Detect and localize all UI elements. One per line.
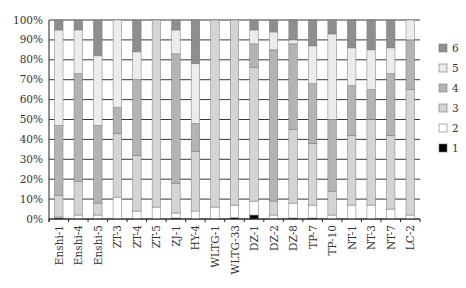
y-tick-label: 80%: [20, 53, 43, 65]
segment-6: [250, 20, 258, 30]
segment-6: [133, 20, 142, 52]
legend-swatch: [439, 144, 447, 152]
legend-label: 1: [452, 142, 459, 154]
segment-4: [269, 50, 278, 201]
segment-2: [172, 213, 181, 218]
segment-3: [55, 195, 64, 217]
segment-3: [406, 90, 415, 215]
segment-2: [230, 205, 239, 218]
x-axis: Enshi-1Enshi-4Enshi-5ZT-3ZT-4ZT-5ZJ-1HY-…: [49, 219, 420, 274]
segment-5: [74, 30, 83, 74]
segment-5: [133, 52, 142, 80]
segment-6: [308, 20, 317, 46]
y-tick-label: 100%: [13, 14, 43, 26]
bar-NT-3: [367, 20, 376, 219]
segment-5: [113, 20, 122, 108]
x-tick-label: TP-7: [307, 225, 319, 249]
segment-4: [74, 74, 83, 181]
y-tick-label: 50%: [20, 113, 43, 125]
x-tick-label: ZJ-1: [170, 225, 182, 247]
segment-5: [308, 46, 317, 84]
bar-TP-7: [308, 20, 317, 219]
segment-2: [211, 207, 220, 219]
segment-2: [250, 201, 258, 215]
x-tick-label: Enshi-5: [92, 225, 104, 265]
bar-TP-10: [328, 20, 337, 219]
legend-swatch: [439, 124, 447, 132]
segment-5: [250, 30, 258, 44]
segment-6: [191, 20, 200, 64]
segment-4: [250, 44, 258, 68]
x-tick-label: LC-2: [404, 225, 416, 250]
x-tick-label: ZT-5: [150, 225, 162, 248]
segment-3: [211, 20, 220, 207]
y-tick-label: 40%: [20, 133, 43, 145]
segment-4: [347, 86, 356, 136]
y-tick-label: 30%: [20, 153, 43, 165]
segment-3: [289, 129, 298, 203]
y-tick-label: 0%: [26, 213, 43, 225]
segment-3: [94, 203, 103, 215]
legend-swatch: [439, 44, 447, 52]
stacked-percent-bar-chart: 0%10%20%30%40%50%60%70%80%90%100% Enshi-…: [0, 0, 466, 288]
legend-label: 6: [452, 42, 459, 54]
x-tick-label: Enshi-4: [72, 225, 84, 265]
legend-swatch: [439, 104, 447, 112]
legend-item-1: 1: [439, 142, 459, 154]
legend: 654321: [439, 42, 459, 154]
segment-4: [113, 108, 122, 134]
x-tick-label: NT-3: [365, 225, 377, 250]
segment-3: [133, 155, 142, 211]
segment-3: [308, 143, 317, 205]
segment-3: [113, 133, 122, 197]
bar-ZJ-1: [172, 20, 181, 219]
x-tick-label: NT-7: [385, 225, 397, 250]
segment-4: [133, 80, 142, 156]
bar-WLTG-1: [211, 20, 220, 219]
x-tick-label: Enshi-1: [53, 225, 65, 265]
x-tick-label: DZ-2: [268, 225, 280, 251]
bar-DZ-8: [289, 20, 298, 219]
y-axis: 0%10%20%30%40%50%60%70%80%90%100%: [13, 14, 49, 225]
x-tick-label: ZT-4: [131, 225, 143, 248]
segment-6: [94, 20, 103, 56]
bar-ZT-4: [133, 20, 142, 219]
segment-6: [74, 20, 83, 30]
legend-label: 5: [452, 62, 459, 74]
segment-2: [386, 209, 395, 219]
segment-2: [347, 205, 356, 219]
segment-6: [269, 20, 278, 32]
legend-swatch: [439, 64, 447, 72]
segment-6: [289, 20, 298, 40]
segment-3: [250, 68, 258, 201]
segment-6: [172, 20, 181, 30]
segment-4: [55, 125, 64, 195]
legend-item-5: 5: [439, 62, 459, 74]
x-tick-label: HY-4: [189, 225, 201, 250]
bar-HY-4: [191, 20, 200, 219]
segment-2: [113, 197, 122, 219]
segment-3: [347, 135, 356, 205]
x-tick-label: WLTG-33: [229, 225, 241, 274]
segment-3: [328, 191, 337, 215]
segment-2: [367, 205, 376, 219]
segment-4: [367, 90, 376, 120]
segment-2: [133, 211, 142, 219]
segment-6: [328, 20, 337, 34]
x-tick-label: DZ-8: [287, 225, 299, 251]
segment-5: [347, 48, 356, 86]
segment-6: [386, 20, 395, 48]
bar-DZ-1: [250, 20, 258, 219]
bar-WLTG-33: [230, 20, 239, 219]
legend-item-2: 2: [439, 122, 459, 134]
segment-5: [289, 40, 298, 44]
x-tick-label: NT-1: [346, 225, 358, 250]
bar-Enshi-1: [55, 20, 64, 219]
segment-3: [386, 135, 395, 209]
segment-3: [367, 120, 376, 206]
segment-3: [269, 201, 278, 215]
legend-item-4: 4: [439, 82, 459, 94]
segment-5: [269, 32, 278, 50]
bar-Enshi-4: [74, 20, 83, 219]
y-tick-label: 90%: [20, 33, 43, 45]
